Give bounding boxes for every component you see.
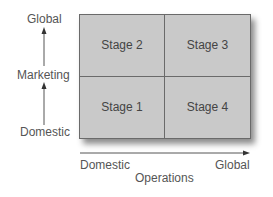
x-axis-arrowhead xyxy=(243,151,250,156)
x-axis-title: Operations xyxy=(135,171,194,185)
x-axis-high-label: Global xyxy=(215,158,250,172)
x-axis-low-label: Domestic xyxy=(80,158,130,172)
y-axis-arrowhead-top xyxy=(42,27,47,34)
quadrant-stage-4: Stage 4 xyxy=(165,77,250,139)
quadrant-stage-3: Stage 3 xyxy=(165,15,250,77)
y-axis-low-label: Domestic xyxy=(20,125,70,139)
quadrant-label: Stage 1 xyxy=(101,100,142,114)
quadrant-stage-2: Stage 2 xyxy=(80,15,165,77)
quadrant-label: Stage 3 xyxy=(187,38,228,52)
quadrant-label: Stage 4 xyxy=(187,100,228,114)
stage-matrix: Stage 2 Stage 3 Stage 1 Stage 4 xyxy=(79,14,251,139)
quadrant-stage-1: Stage 1 xyxy=(80,77,165,139)
y-axis-title: Marketing xyxy=(17,68,70,82)
y-axis-high-label: Global xyxy=(27,12,62,26)
quadrant-label: Stage 2 xyxy=(101,38,142,52)
y-axis-arrowhead-middle xyxy=(42,82,47,89)
